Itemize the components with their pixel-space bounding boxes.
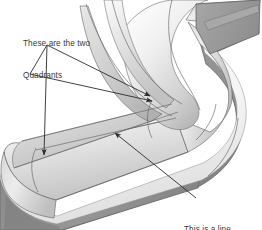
annotation-label-quadrants-line1: These are the two [23,39,90,50]
annotation-label-quadrants-line2: Quadrants [23,71,90,82]
annotation-label-quadrants: These are the two Quadrants [23,18,90,102]
annotation-label-line: This is a line [184,204,231,230]
annotation-label-line-line1: This is a line [184,225,231,230]
cad-render-canvas: These are the two Quadrants This is a li… [0,0,262,230]
